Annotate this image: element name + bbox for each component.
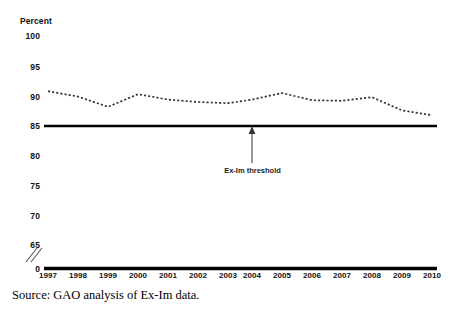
chart-plot-area: [0, 0, 460, 309]
x-axis-tick-2005: 2005: [265, 271, 299, 280]
x-axis-tick-2004: 2004: [235, 271, 269, 280]
annotation-arrow: [249, 126, 256, 163]
x-axis-tick-1997: 1997: [31, 271, 65, 280]
x-axis-tick-2006: 2006: [295, 271, 329, 280]
series-line-ex-im-content: [48, 91, 432, 115]
x-axis-tick-1999: 1999: [91, 271, 125, 280]
x-axis-tick-1998: 1998: [61, 271, 95, 280]
x-axis-tick-2001: 2001: [151, 271, 185, 280]
x-axis-tick-2010: 2010: [415, 271, 449, 280]
source-note: Source: GAO analysis of Ex-Im data.: [12, 288, 199, 303]
x-axis-tick-2002: 2002: [181, 271, 215, 280]
x-axis-tick-2007: 2007: [325, 271, 359, 280]
x-axis-tick-2000: 2000: [121, 271, 155, 280]
x-axis-tick-2009: 2009: [385, 271, 419, 280]
axis-break-marker: [26, 248, 42, 262]
x-axis-tick-2008: 2008: [355, 271, 389, 280]
chart-figure: Percent 100 95 90 85 80 75 70 65 0 Ex-Im…: [0, 0, 460, 309]
annotation-ex-im-threshold: Ex-Im threshold: [200, 166, 305, 175]
